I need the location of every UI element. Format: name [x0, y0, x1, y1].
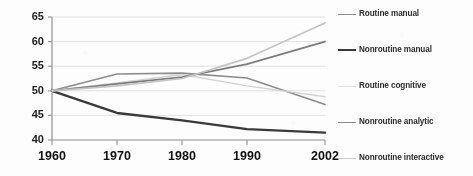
x-tick-label: 1960	[29, 150, 75, 163]
y-tick-label: 40	[18, 134, 44, 145]
legend-label-routine-manual: Routine manual	[359, 9, 419, 19]
chart-legend: Routine manual Nonroutine manual Routine…	[338, 0, 473, 176]
y-tick-label: 45	[18, 109, 44, 120]
legend-swatch-routine-manual	[338, 14, 356, 15]
y-tick-label: 65	[18, 11, 44, 22]
x-tick-label: 1970	[94, 150, 140, 163]
legend-label-nonroutine-manual: Nonroutine manual	[359, 45, 432, 55]
legend-item-nonroutine-manual: Nonroutine manual	[338, 44, 432, 56]
chart-figure: 404550556065 19601970198019902002 Routin…	[0, 0, 473, 176]
series-line-nonroutine-manual	[52, 91, 325, 133]
x-axis-ticks	[52, 140, 325, 145]
legend-label-nonroutine-interactive: Nonroutine interactive	[359, 153, 444, 163]
legend-item-routine-cognitive: Routine cognitive	[338, 80, 426, 92]
x-tick-label: 1980	[159, 150, 205, 163]
series-lines	[52, 23, 325, 133]
legend-swatch-routine-cognitive	[338, 86, 356, 87]
legend-swatch-nonroutine-analytic	[338, 122, 356, 123]
y-tick-label: 50	[18, 85, 44, 96]
y-tick-label: 55	[18, 60, 44, 71]
series-line-routine-manual	[52, 73, 325, 104]
legend-item-routine-manual: Routine manual	[338, 8, 419, 20]
legend-item-nonroutine-interactive: Nonroutine interactive	[338, 152, 444, 164]
legend-swatch-nonroutine-manual	[338, 49, 356, 51]
legend-label-nonroutine-analytic: Nonroutine analytic	[359, 117, 434, 127]
legend-item-nonroutine-analytic: Nonroutine analytic	[338, 116, 434, 128]
legend-label-routine-cognitive: Routine cognitive	[359, 81, 426, 91]
y-tick-label: 60	[18, 36, 44, 47]
x-tick-label: 1990	[224, 150, 270, 163]
legend-swatch-nonroutine-interactive	[338, 158, 356, 159]
